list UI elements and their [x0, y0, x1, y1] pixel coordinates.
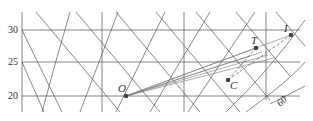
- y-tick-25: 25: [8, 56, 18, 67]
- point-labels: O C T I: [118, 22, 289, 94]
- y-axis-ticks: 30 25 20: [8, 24, 18, 101]
- label-i: I: [283, 22, 289, 34]
- diagram: 30 25 20 O C T I 60: [0, 0, 313, 121]
- y-tick-20: 20: [8, 90, 18, 101]
- point-i: [289, 33, 294, 38]
- label-o: O: [118, 82, 126, 94]
- point-t: [254, 46, 259, 51]
- label-t: T: [251, 34, 258, 46]
- label-c: C: [230, 79, 238, 91]
- point-o: [124, 94, 129, 99]
- y-tick-30: 30: [8, 24, 18, 35]
